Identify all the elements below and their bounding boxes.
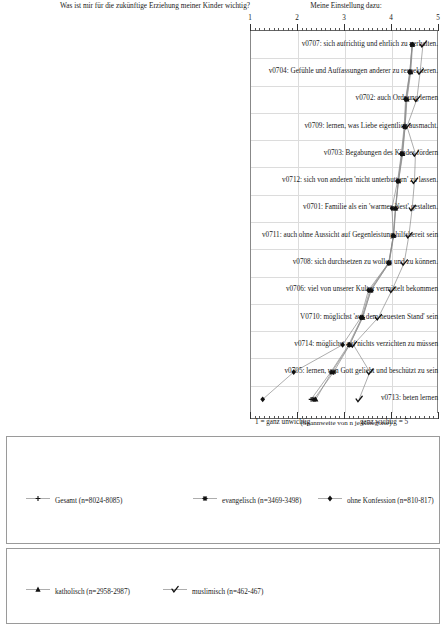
legend-item-gesamt[interactable]: Gesamt (n=8024-8085) xyxy=(25,494,122,505)
axis-tick-label-1: 1 xyxy=(248,14,252,22)
series-star xyxy=(311,42,414,402)
legend-item-muslimisch[interactable]: muslimisch (n=462-467) xyxy=(162,585,263,596)
page-title-right: Meine Einstellung dazu: xyxy=(248,1,444,10)
triangle-marker-icon xyxy=(25,585,51,594)
chart-page: Was ist mir für die zukünftige Erziehung… xyxy=(0,0,446,630)
legend-item-evangelisch[interactable]: evangelisch (n=3469-3498) xyxy=(192,494,301,505)
legend-label: muslimisch (n=462-467) xyxy=(192,588,263,596)
page-title-left: Was ist mir für die zukünftige Erziehung… xyxy=(52,1,258,11)
axis-tick-label-3: 3 xyxy=(342,14,346,22)
axis-tick-label-5: 5 xyxy=(436,14,440,22)
legend-box-primary: Gesamt (n=8024-8085)evangelisch (n=3469-… xyxy=(6,436,440,544)
legend-box-secondary: katholisch (n=2958-2987)muslimisch (n=46… xyxy=(6,548,440,624)
check-marker-icon xyxy=(162,585,188,594)
legend-label: Gesamt (n=8024-8085) xyxy=(55,497,122,505)
series-plus xyxy=(309,42,415,402)
series-overlay xyxy=(250,31,438,413)
series-diamond xyxy=(260,42,414,403)
star-marker-icon xyxy=(192,494,218,503)
range-note: (Spannweite von n je Kategorie) xyxy=(248,419,444,427)
axis-tick-label-4: 4 xyxy=(389,14,393,22)
series-check xyxy=(350,42,426,402)
legend-label: katholisch (n=2958-2987) xyxy=(55,588,130,596)
legend-label: evangelisch (n=3469-3498) xyxy=(222,497,301,505)
series-triangle xyxy=(313,42,415,402)
axis-tick-label-2: 2 xyxy=(295,14,299,22)
legend-item-ohne-konfession[interactable]: ohne Konfession (n=810-817) xyxy=(317,494,434,505)
axis-top-ruler xyxy=(250,24,438,31)
plus-marker-icon xyxy=(25,494,51,503)
legend-label: ohne Konfession (n=810-817) xyxy=(347,497,434,505)
diamond-marker-icon xyxy=(317,494,343,503)
legend-item-katholisch[interactable]: katholisch (n=2958-2987) xyxy=(25,585,130,596)
